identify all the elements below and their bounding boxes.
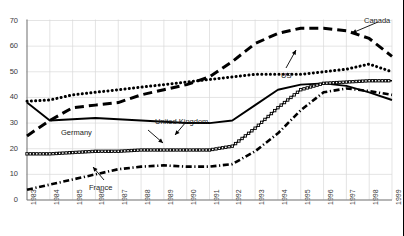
series-marker xyxy=(205,149,207,151)
series-marker xyxy=(179,149,181,151)
series-marker xyxy=(352,80,354,82)
series-marker xyxy=(26,153,28,155)
series-marker xyxy=(42,153,44,155)
series-marker xyxy=(39,153,41,155)
series-marker xyxy=(280,104,282,106)
series-marker xyxy=(267,115,269,117)
series-marker xyxy=(277,106,279,108)
series-marker xyxy=(91,150,93,152)
series-marker xyxy=(375,80,377,82)
annotation-label-us: US xyxy=(281,71,291,80)
series-marker xyxy=(176,149,178,151)
series-marker xyxy=(143,149,145,151)
series-marker xyxy=(71,151,73,153)
series-marker xyxy=(225,146,227,148)
series-marker xyxy=(202,149,204,151)
series-marker xyxy=(68,152,70,154)
series-marker xyxy=(319,83,321,85)
series-marker xyxy=(332,82,334,84)
series-marker xyxy=(29,153,31,155)
series-marker xyxy=(55,152,57,154)
series-marker xyxy=(313,85,315,87)
series-marker xyxy=(247,132,249,134)
series-marker xyxy=(273,109,275,111)
series-marker xyxy=(260,121,262,123)
series-marker xyxy=(339,81,341,83)
series-marker xyxy=(293,94,295,96)
series-marker xyxy=(127,150,129,152)
series-marker xyxy=(365,80,367,82)
annotation-label-canada: Canada xyxy=(364,16,390,25)
series-marker xyxy=(84,151,86,153)
series-marker xyxy=(378,80,380,82)
series-marker xyxy=(192,149,194,151)
annotation-label-france: France xyxy=(89,183,112,192)
annotation-arrow-1 xyxy=(286,50,296,68)
series-marker xyxy=(52,152,54,154)
series-marker xyxy=(218,147,220,149)
series-marker xyxy=(75,151,77,153)
series-marker xyxy=(306,87,308,89)
series-marker xyxy=(101,150,103,152)
series-marker xyxy=(58,152,60,154)
series-marker xyxy=(221,147,223,149)
series-marker xyxy=(146,149,148,151)
series-marker xyxy=(238,140,240,142)
series-marker xyxy=(65,152,67,154)
series-marker xyxy=(185,149,187,151)
series-marker xyxy=(117,150,119,152)
series-marker xyxy=(287,99,289,101)
series-marker xyxy=(215,148,217,150)
series-marker xyxy=(153,149,155,151)
series-marker xyxy=(189,149,191,151)
series-marker xyxy=(133,149,135,151)
series-marker xyxy=(316,84,318,86)
chart-figure: 706050403020100 198319841985198619871988… xyxy=(0,0,404,236)
series-marker xyxy=(62,152,64,154)
series-marker xyxy=(355,80,357,82)
series-marker xyxy=(150,149,152,151)
series-marker xyxy=(309,86,311,88)
series-marker xyxy=(94,150,96,152)
series-marker xyxy=(254,127,256,129)
series-marker xyxy=(290,96,292,98)
series-marker xyxy=(166,149,168,151)
series-marker xyxy=(140,149,142,151)
series-marker xyxy=(251,130,253,132)
series-marker xyxy=(322,82,324,84)
series-marker xyxy=(300,89,302,91)
series-marker xyxy=(182,149,184,151)
series-marker xyxy=(163,149,165,151)
annotation-label-united-kingdom: United Kingdom xyxy=(155,117,208,126)
series-marker xyxy=(208,149,210,151)
series-marker xyxy=(326,82,328,84)
series-marker xyxy=(81,151,83,153)
series-marker xyxy=(88,150,90,152)
series-marker xyxy=(45,153,47,155)
series-marker xyxy=(228,145,230,147)
series-marker xyxy=(104,150,106,152)
series-marker xyxy=(137,149,139,151)
series-marker xyxy=(130,149,132,151)
series-marker xyxy=(384,80,386,82)
series-marker xyxy=(388,80,390,82)
series-marker xyxy=(78,151,80,153)
series-marker xyxy=(381,80,383,82)
series-marker xyxy=(345,81,347,83)
series-marker xyxy=(270,112,272,114)
series-marker xyxy=(231,145,233,147)
series-marker xyxy=(124,150,126,152)
annotation-arrow-3 xyxy=(148,130,163,143)
series-marker xyxy=(241,137,243,139)
series-marker xyxy=(36,153,38,155)
series-marker xyxy=(335,81,337,83)
annotation-label-germany: Germany xyxy=(61,128,92,137)
series-marker xyxy=(371,80,373,82)
series-marker xyxy=(234,142,236,144)
series-marker xyxy=(283,101,285,103)
series-marker xyxy=(264,118,266,120)
series-marker xyxy=(32,153,34,155)
series-marker xyxy=(111,150,113,152)
series-marker xyxy=(156,149,158,151)
series-marker xyxy=(107,150,109,152)
